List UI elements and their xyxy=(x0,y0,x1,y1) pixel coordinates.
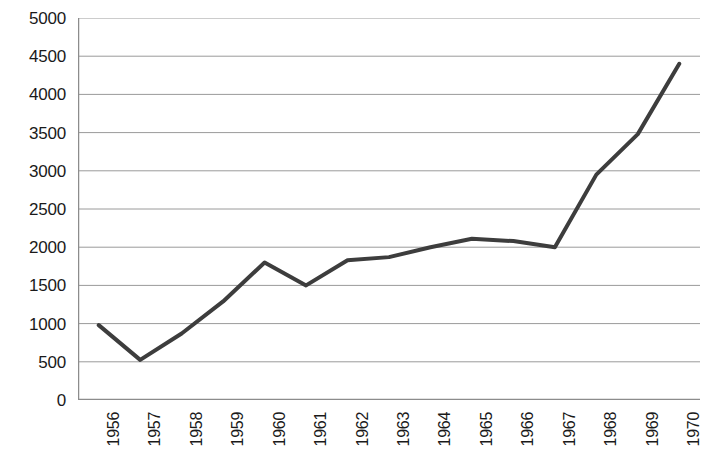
x-tick-label: 1963 xyxy=(396,412,412,446)
line-chart: 0500100015002000250030003500400045005000… xyxy=(0,0,706,451)
x-tick-label: 1964 xyxy=(437,412,453,446)
y-tick-label: 3500 xyxy=(29,124,66,141)
y-tick-label: 2000 xyxy=(29,239,66,256)
y-tick-label: 500 xyxy=(38,353,66,370)
x-tick-label: 1960 xyxy=(272,412,288,446)
y-axis-tick-labels: 0500100015002000250030003500400045005000 xyxy=(0,0,78,451)
x-tick-label: 1959 xyxy=(230,412,246,446)
y-tick-label: 0 xyxy=(57,392,66,409)
x-tick-label: 1968 xyxy=(603,412,619,446)
plot-area xyxy=(78,18,700,400)
x-tick-label: 1956 xyxy=(106,412,122,446)
x-tick-label: 1969 xyxy=(645,412,661,446)
x-tick-label: 1966 xyxy=(520,412,536,446)
gridlines xyxy=(78,18,700,362)
y-tick-label: 1500 xyxy=(29,277,66,294)
x-tick-label: 1961 xyxy=(313,412,329,446)
x-tick-label: 1970 xyxy=(686,412,702,446)
y-tick-label: 2500 xyxy=(29,201,66,218)
plot-svg xyxy=(78,18,700,400)
data-series-line xyxy=(99,64,680,360)
x-tick-label: 1965 xyxy=(479,412,495,446)
y-tick-label: 4500 xyxy=(29,48,66,65)
y-tick-label: 4000 xyxy=(29,86,66,103)
x-tick-label: 1967 xyxy=(562,412,578,446)
y-tick-label: 5000 xyxy=(29,10,66,27)
x-tick-label: 1957 xyxy=(147,412,163,446)
y-tick-label: 3000 xyxy=(29,162,66,179)
x-tick-label: 1958 xyxy=(189,412,205,446)
x-tick-label: 1962 xyxy=(355,412,371,446)
y-tick-label: 1000 xyxy=(29,315,66,332)
series-line xyxy=(99,64,680,360)
x-axis-tick-labels: 1956195719581959196019611962196319641965… xyxy=(78,400,700,451)
